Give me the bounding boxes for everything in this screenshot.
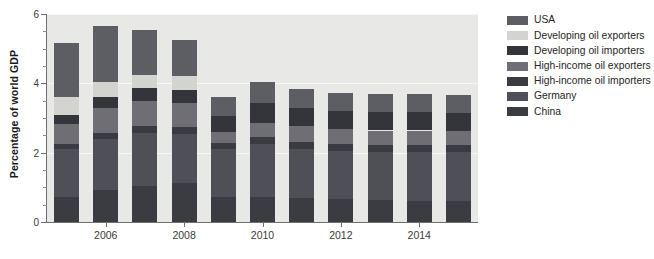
bar-2008[interactable] [172,14,197,222]
bar-segment[interactable] [407,145,432,152]
bar-segment[interactable] [368,145,393,152]
bar-segment[interactable] [250,103,275,122]
bar-segment[interactable] [54,149,79,197]
bar-segment[interactable] [446,152,471,201]
bar-segment[interactable] [93,108,118,132]
bar-segment[interactable] [132,133,157,186]
bar-segment[interactable] [132,30,157,76]
y-tick-major [41,222,47,223]
bar-segment[interactable] [211,116,236,132]
bar-segment[interactable] [446,95,471,113]
bar-2009[interactable] [211,14,236,222]
bar-segment[interactable] [328,111,353,129]
y-tick-minor [43,187,47,188]
bar-segment[interactable] [132,186,157,222]
legend-item[interactable]: Germany [507,89,652,104]
bar-segment[interactable] [250,197,275,222]
bar-segment[interactable] [54,144,79,150]
bar-2007[interactable] [132,14,157,222]
bar-segment[interactable] [446,201,471,222]
bar-segment[interactable] [93,190,118,222]
legend-item[interactable]: Developing oil importers [507,43,652,58]
chart-legend: USADeveloping oil exportersDeveloping oi… [507,13,652,119]
x-tick-label: 2012 [329,229,352,241]
bar-segment[interactable] [289,126,314,141]
bar-segment[interactable] [93,133,118,139]
bar-segment[interactable] [54,124,79,143]
bar-segment[interactable] [289,142,314,150]
bar-segment[interactable] [368,131,393,146]
legend-item[interactable]: High-income oil exporters [507,59,652,74]
bar-segment[interactable] [328,199,353,222]
legend-label: Germany [534,91,576,101]
bar-segment[interactable] [211,197,236,222]
legend-item[interactable]: High-income oil importers [507,74,652,89]
bar-segment[interactable] [54,115,79,125]
bar-segment[interactable] [132,75,157,87]
bar-segment[interactable] [289,149,314,198]
bar-segment[interactable] [407,201,432,222]
legend-item[interactable]: USA [507,13,652,28]
bar-2013[interactable] [368,14,393,222]
bar-segment[interactable] [328,129,353,144]
bar-segment[interactable] [132,88,157,101]
bar-2010[interactable] [250,14,275,222]
bar-segment[interactable] [250,137,275,145]
bar-segment[interactable] [211,149,236,197]
bar-segment[interactable] [368,94,393,112]
bar-segment[interactable] [211,97,236,116]
bar-segment[interactable] [368,152,393,200]
x-tick [419,222,420,227]
bar-segment[interactable] [172,90,197,104]
bar-2005[interactable] [54,14,79,222]
bar-segment[interactable] [407,94,432,112]
legend-swatch-icon [507,62,528,71]
bar-segment[interactable] [93,97,118,109]
y-tick-label: 2 [33,147,39,158]
bar-segment[interactable] [368,112,393,130]
bar-segment[interactable] [289,89,314,108]
bar-segment[interactable] [407,152,432,201]
bar-segment[interactable] [250,123,275,137]
bar-segment[interactable] [250,144,275,197]
legend-label: USA [534,15,555,25]
bar-segment[interactable] [368,200,393,222]
bar-segment[interactable] [172,134,197,183]
y-tick-minor [43,31,47,32]
bar-segment[interactable] [407,112,432,130]
bar-2006[interactable] [93,14,118,222]
bar-segment[interactable] [54,197,79,222]
x-tick [184,222,185,227]
plot-area: 0246 20062008201020122014 [47,14,478,222]
bar-segment[interactable] [446,113,471,131]
bar-segment[interactable] [172,76,197,90]
bar-2012[interactable] [328,14,353,222]
bar-segment[interactable] [250,82,275,103]
bar-segment[interactable] [172,127,197,134]
legend-item[interactable]: China [507,104,652,119]
bar-segment[interactable] [93,26,118,82]
bar-segment[interactable] [211,132,236,143]
bar-segment[interactable] [289,198,314,222]
bar-segment[interactable] [54,97,79,115]
bar-segment[interactable] [328,151,353,200]
bar-segment[interactable] [132,101,157,126]
legend-item[interactable]: Developing oil exporters [507,28,652,43]
bar-segment[interactable] [446,131,471,145]
bar-segment[interactable] [446,145,471,152]
bar-segment[interactable] [172,40,197,76]
bar-segment[interactable] [289,108,314,126]
bar-segment[interactable] [407,131,432,146]
bar-segment[interactable] [93,82,118,97]
bar-segment[interactable] [132,126,157,133]
bar-segment[interactable] [328,144,353,151]
bar-2014[interactable] [407,14,432,222]
bar-segment[interactable] [54,43,79,96]
bar-segment[interactable] [211,143,236,149]
bar-segment[interactable] [172,103,197,127]
bar-segment[interactable] [172,183,197,222]
bar-segment[interactable] [328,93,353,111]
bar-segment[interactable] [93,139,118,190]
bar-2015[interactable] [446,14,471,222]
bar-2011[interactable] [289,14,314,222]
